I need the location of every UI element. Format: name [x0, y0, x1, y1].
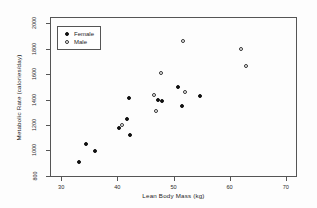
data-point-male: [244, 64, 248, 68]
y-tick-mark: [46, 49, 50, 50]
y-tick-label: 1600: [23, 71, 45, 77]
x-axis-title: Lean Body Mass (kg): [50, 192, 297, 199]
y-tick-mark: [46, 176, 50, 177]
data-point-female: [156, 98, 160, 102]
legend-marker-female-icon: [62, 32, 72, 36]
data-point-male: [154, 109, 158, 113]
data-point-female: [84, 142, 88, 146]
legend-label-female: Female: [74, 31, 94, 37]
y-tick-mark: [46, 74, 50, 75]
x-tick-label: 70: [283, 184, 289, 190]
legend-item-female: Female: [62, 30, 94, 38]
data-point-female: [160, 99, 164, 103]
x-tick-mark: [286, 177, 287, 181]
x-tick-label: 30: [58, 184, 64, 190]
y-axis-title: Metabolic Rate (calories/day): [14, 17, 24, 177]
data-point-female: [77, 160, 81, 164]
legend-label-male: Male: [74, 39, 87, 45]
y-tick-mark: [46, 150, 50, 151]
y-tick-mark: [46, 125, 50, 126]
y-tick-label: 1000: [23, 147, 45, 153]
legend: Female Male: [57, 26, 101, 50]
data-point-female: [176, 85, 180, 89]
data-point-female: [125, 117, 129, 121]
data-point-female: [198, 94, 202, 98]
y-axis-title-text: Metabolic Rate (calories/day): [16, 54, 23, 140]
y-tick-mark: [46, 100, 50, 101]
data-point-female: [93, 149, 97, 153]
data-point-male: [181, 39, 185, 43]
data-point-male: [120, 123, 124, 127]
y-tick-label: 800: [23, 173, 45, 179]
y-tick-label: 1400: [23, 97, 45, 103]
x-tick-mark: [61, 177, 62, 181]
legend-item-male: Male: [62, 38, 94, 46]
data-point-male: [239, 47, 243, 51]
y-tick-label: 1800: [23, 46, 45, 52]
x-tick-label: 50: [170, 184, 176, 190]
x-tick-label: 40: [114, 184, 120, 190]
data-point-female: [128, 133, 132, 137]
x-tick-mark: [117, 177, 118, 181]
y-tick-mark: [46, 23, 50, 24]
y-tick-label: 2000: [23, 20, 45, 26]
data-point-male: [152, 93, 156, 97]
data-point-male: [183, 90, 187, 94]
x-tick-mark: [230, 177, 231, 181]
y-tick-label: 1200: [23, 122, 45, 128]
data-point-female: [127, 96, 131, 100]
data-point-female: [180, 104, 184, 108]
legend-marker-male-icon: [62, 40, 72, 44]
scatter-plot-figure: 800100012001400160018002000 3040506070 M…: [0, 0, 317, 208]
x-tick-label: 60: [227, 184, 233, 190]
x-tick-mark: [174, 177, 175, 181]
data-point-male: [159, 71, 163, 75]
